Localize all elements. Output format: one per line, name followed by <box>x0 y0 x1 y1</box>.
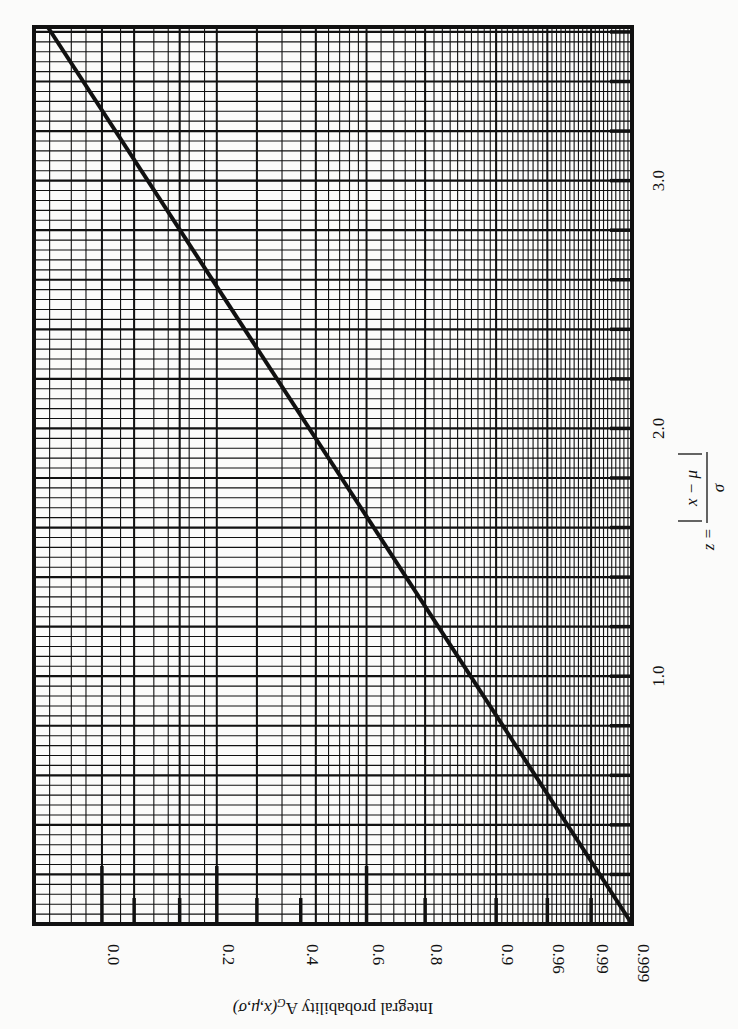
p-axis-title-sub: G <box>277 996 286 1010</box>
z-axis-title: z = x − μ σ <box>678 452 728 551</box>
z-tick-labels: 1.02.03.0 <box>649 170 668 687</box>
probability-tick-label: 0.6 <box>369 944 388 965</box>
z-tick-label: 1.0 <box>649 666 668 687</box>
probability-tick-label: 0.0 <box>104 944 123 965</box>
probability-tick-label: 0.4 <box>303 944 322 966</box>
z-tick-label: 3.0 <box>649 170 668 191</box>
probability-tick-label: 0.999 <box>634 944 653 982</box>
probability-tick-label: 0.8 <box>427 944 446 965</box>
probability-tick-label: 0.2 <box>219 944 238 965</box>
p-axis-title-main: Integral probability A <box>285 999 433 1018</box>
probability-tick-labels: 0.9990.990.960.90.80.60.40.20.0 <box>104 944 653 982</box>
svg-text:Integral probability AG(x,μ,σ): Integral probability AG(x,μ,σ) <box>233 996 434 1018</box>
probability-tick-label: 0.96 <box>549 944 568 974</box>
z-tick-label: 2.0 <box>649 418 668 439</box>
z-axis-numerator: x − μ <box>682 470 701 507</box>
z-axis-lhs: z = <box>699 528 718 551</box>
probability-axis-title: Integral probability AG(x,μ,σ) <box>233 996 434 1018</box>
probability-chart: 0.9990.990.960.90.80.60.40.20.0 1.02.03.… <box>0 0 738 1029</box>
probability-tick-label: 0.9 <box>498 944 517 965</box>
probability-tick-label: 0.99 <box>593 944 612 974</box>
p-axis-title-args: (x,μ,σ) <box>233 999 278 1018</box>
z-axis-denominator: σ <box>709 483 728 492</box>
